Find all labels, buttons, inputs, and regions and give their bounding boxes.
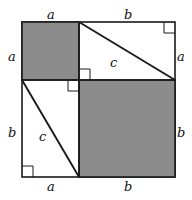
label-a-bottom: a (47, 180, 55, 193)
shaded-square-a-squared (22, 22, 79, 80)
label-b-top: b (124, 8, 132, 21)
label-a-left: a (8, 50, 16, 63)
label-c-lower: c (39, 130, 46, 143)
shaded-square-b-squared (79, 80, 175, 177)
pythagorean-proof-figure: a b a a b b a b c c (0, 0, 192, 200)
label-b-bottom: b (124, 180, 132, 193)
label-c-upper: c (110, 56, 117, 69)
label-b-right: b (177, 126, 185, 139)
label-a-right: a (177, 50, 185, 63)
label-b-left: b (8, 126, 16, 139)
figure-canvas (0, 0, 192, 200)
label-a-top: a (47, 8, 55, 21)
